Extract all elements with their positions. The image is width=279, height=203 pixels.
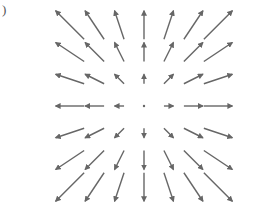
vector-arrow-icon	[115, 11, 125, 40]
vector-arrow-icon	[56, 173, 85, 202]
vector-arrow-icon	[56, 151, 85, 170]
vector-arrow-icon	[56, 11, 85, 40]
vector-arrow-icon	[85, 173, 104, 202]
vector-arrow-icon	[115, 173, 125, 202]
vector-arrow-icon	[115, 128, 125, 138]
vector-arrow-icon	[164, 43, 174, 62]
vector-arrow-icon	[204, 11, 233, 40]
vector-arrow-icon	[184, 43, 203, 62]
vector-arrow-icon	[115, 43, 125, 62]
vector-arrow-icon	[115, 74, 125, 84]
vector-arrow-icon	[184, 173, 203, 202]
vector-arrow-icon	[204, 151, 233, 170]
vector-arrow-icon	[85, 128, 104, 138]
vector-arrow-icon	[56, 43, 85, 62]
vector-field-plot	[0, 0, 279, 203]
vector-arrow-icon	[164, 11, 174, 40]
vector-arrow-icon	[204, 43, 233, 62]
vector-arrow-icon	[164, 128, 174, 138]
vector-arrow-icon	[184, 151, 203, 170]
zero-vector-dot	[143, 105, 145, 107]
vector-arrow-icon	[164, 173, 174, 202]
vector-arrow-icon	[56, 128, 85, 138]
vector-arrow-icon	[115, 151, 125, 170]
vector-arrow-icon	[204, 173, 233, 202]
vector-arrow-icon	[184, 128, 203, 138]
vector-arrow-icon	[184, 74, 203, 84]
vector-arrow-icon	[85, 43, 104, 62]
vector-arrow-icon	[85, 74, 104, 84]
vector-arrow-icon	[204, 74, 233, 84]
vector-arrow-icon	[204, 128, 233, 138]
vector-arrow-icon	[164, 151, 174, 170]
vector-arrow-icon	[56, 74, 85, 84]
vector-arrow-icon	[85, 11, 104, 40]
vector-arrow-icon	[85, 151, 104, 170]
vector-arrow-icon	[184, 11, 203, 40]
vector-arrow-icon	[164, 74, 174, 84]
